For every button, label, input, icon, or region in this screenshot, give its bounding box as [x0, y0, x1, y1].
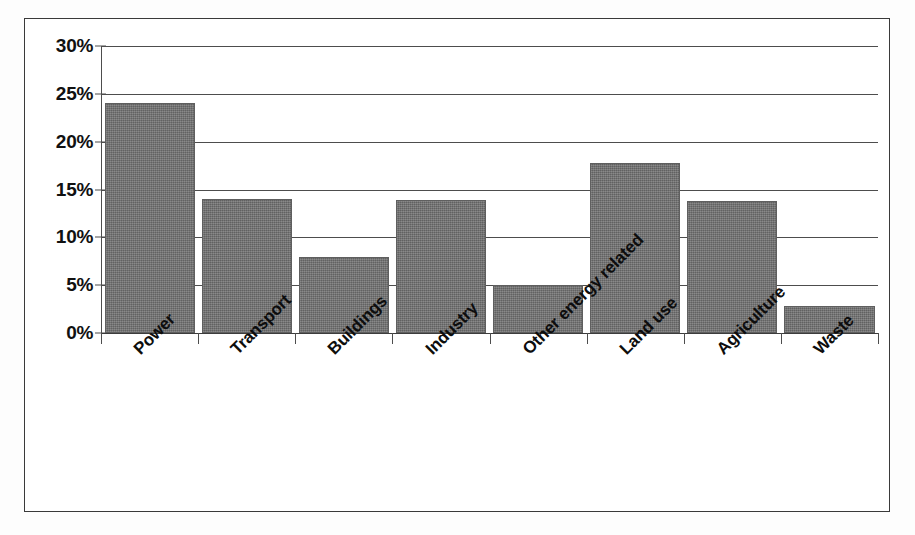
chart-frame: 30%25%20%15%10%5%0% PowerTransportBuildi…	[24, 18, 890, 512]
x-axis-tick	[587, 333, 588, 344]
bar-slot	[781, 46, 878, 333]
bar-slot	[490, 46, 587, 333]
scanned-page: 30%25%20%15%10%5%0% PowerTransportBuildi…	[0, 0, 915, 535]
x-axis-tick	[490, 333, 491, 344]
bar-slot	[295, 46, 392, 333]
x-axis-category-labels: PowerTransportBuildingsIndustryOther ene…	[101, 345, 891, 505]
x-axis-tick	[295, 333, 296, 344]
bar-slot	[101, 46, 198, 333]
bar	[105, 103, 195, 333]
x-axis-tick	[392, 333, 393, 344]
bar-slot	[392, 46, 489, 333]
x-axis-tick	[101, 333, 102, 344]
x-axis-tick	[878, 333, 879, 344]
x-axis-tick	[198, 333, 199, 344]
x-axis-tick-marks	[101, 333, 879, 345]
x-axis-tick	[684, 333, 685, 344]
plot-area	[101, 46, 878, 333]
x-axis-tick	[781, 333, 782, 344]
